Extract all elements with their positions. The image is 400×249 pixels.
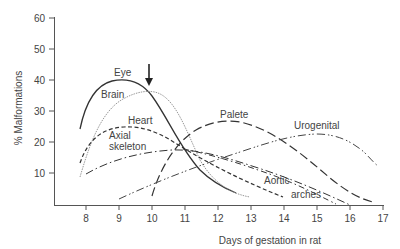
label-axial: Axial xyxy=(109,130,131,141)
malformation-chart: 10 20 30 40 50 60 8 9 10 11 12 13 14 15 … xyxy=(0,0,400,249)
x-tick-label: 9 xyxy=(116,213,122,224)
y-tick-label: 40 xyxy=(34,75,46,86)
arrow-annotation xyxy=(145,64,153,86)
x-tick-label: 14 xyxy=(278,213,290,224)
x-tick-labels: 8 9 10 11 12 13 14 15 16 17 xyxy=(83,213,389,224)
label-aortic: Aortic xyxy=(264,175,290,186)
y-tick-label: 50 xyxy=(34,44,46,55)
y-tick-label: 60 xyxy=(34,13,46,24)
x-tick-label: 17 xyxy=(377,213,389,224)
y-tick-label: 20 xyxy=(34,137,46,148)
x-axis-title: Days of gestation in rat xyxy=(219,235,321,246)
label-brain: Brain xyxy=(101,89,124,100)
x-tick-label: 10 xyxy=(146,213,158,224)
label-eye: Eye xyxy=(114,67,132,78)
label-palete: Palete xyxy=(220,109,249,120)
series-brain-line xyxy=(80,91,250,197)
x-tick-label: 11 xyxy=(180,213,191,224)
y-tick-marks xyxy=(49,18,54,173)
y-tick-labels: 10 20 30 40 50 60 xyxy=(34,13,46,179)
y-axis-title: % Malformations xyxy=(13,71,24,145)
series-palete-line xyxy=(152,121,373,202)
y-tick-label: 30 xyxy=(34,106,46,117)
x-tick-label: 16 xyxy=(344,213,356,224)
arrow-down-icon xyxy=(145,78,153,86)
x-tick-label: 15 xyxy=(311,213,323,224)
x-tick-label: 8 xyxy=(83,213,89,224)
x-tick-label: 12 xyxy=(212,213,224,224)
y-tick-label: 10 xyxy=(34,168,46,179)
label-urogenital: Urogenital xyxy=(294,120,340,131)
label-heart: Heart xyxy=(128,115,153,126)
x-tick-label: 13 xyxy=(245,213,257,224)
label-skeleton: skeleton xyxy=(109,141,146,152)
label-arches: arches xyxy=(291,189,321,200)
